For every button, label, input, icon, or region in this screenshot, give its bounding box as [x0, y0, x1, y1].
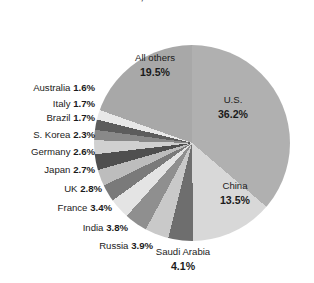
slice-label-uk-pct: 2.8% [80, 183, 102, 194]
slice-label-australia-name: Australia [33, 82, 73, 93]
slice-label-russia-pct: 3.9% [131, 240, 153, 251]
slice-label-s-korea: S. Korea 2.3% [0, 129, 95, 142]
slice-label-uk-name: UK [64, 183, 80, 194]
slice-label-brazil-pct: 1.7% [73, 112, 95, 123]
slice-label-germany-name: Germany [31, 146, 73, 157]
chart-page: GLOBAL MILITARY SPENDING, 2014 All other… [0, 0, 314, 283]
slice-label-germany-pct: 2.6% [73, 146, 95, 157]
slice-label-italy-pct: 1.7% [73, 98, 95, 109]
slice-label-japan: Japan 2.7% [0, 164, 95, 177]
slice-label-japan-name: Japan [44, 164, 73, 175]
slice-label-brazil-name: Brazil [46, 112, 73, 123]
slice-label-russia-name: Russia [99, 240, 131, 251]
slice-label-germany: Germany 2.6% [0, 146, 95, 159]
slice-label-italy-name: Italy [53, 98, 73, 109]
slice-label-italy: Italy 1.7% [0, 98, 95, 111]
slice-label-all-others-pct: 19.5% [112, 66, 198, 79]
slice-label-china: China 13.5% [206, 180, 264, 206]
slice-label-all-others-name: All others [112, 52, 198, 65]
slice-label-us-pct: 36.2% [203, 108, 263, 121]
slice-label-uk: UK 2.8% [0, 183, 102, 196]
slice-label-japan-pct: 2.7% [73, 164, 95, 175]
slice-label-france: France 3.4% [0, 202, 112, 215]
slice-label-us: U.S. 36.2% [203, 94, 263, 120]
slice-label-brazil: Brazil 1.7% [0, 112, 95, 125]
slice-label-france-pct: 3.4% [90, 202, 112, 213]
slice-label-all-others: All others 19.5% [112, 52, 198, 78]
slice-label-australia-pct: 1.6% [73, 82, 95, 93]
slice-label-australia: Australia 1.6% [0, 82, 95, 95]
slice-label-russia: Russia 3.9% [0, 240, 153, 253]
slice-label-china-name: China [206, 180, 264, 193]
chart-title: GLOBAL MILITARY SPENDING, 2014 [0, 0, 314, 5]
slice-label-france-name: France [58, 202, 91, 213]
slice-label-india-name: India [83, 222, 106, 233]
slice-label-s-korea-pct: 2.3% [73, 129, 95, 140]
slice-label-us-name: U.S. [203, 94, 263, 107]
slice-label-india-pct: 3.8% [106, 222, 128, 233]
slice-label-china-pct: 13.5% [206, 194, 264, 207]
slice-label-saudi-arabia-pct: 4.1% [137, 260, 229, 273]
slice-label-india: India 3.8% [0, 222, 128, 235]
slice-label-s-korea-name: S. Korea [33, 129, 73, 140]
